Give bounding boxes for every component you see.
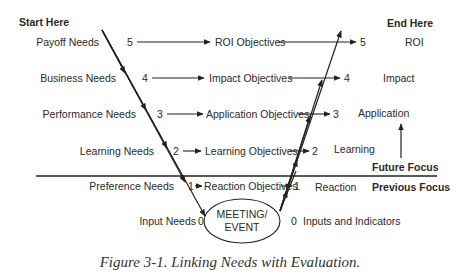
center-node-line2: EVENT (204, 221, 280, 233)
need-level-4: 4 (142, 72, 148, 84)
start-here-label: Start Here (19, 16, 69, 28)
previous-focus-label: Previous Focus (372, 181, 450, 193)
objective-label-1: Reaction Objectives (204, 180, 297, 192)
need-label-2: Learning Needs (80, 145, 154, 157)
need-level-2: 2 (173, 145, 179, 157)
need-level-3: 3 (157, 108, 163, 120)
eval-level-1: 1 (294, 180, 300, 192)
need-level-5: 5 (127, 36, 133, 48)
center-node-line1: MEETING/ (204, 208, 280, 220)
eval-level-5: 5 (360, 36, 366, 48)
need-label-3: Performance Needs (43, 108, 136, 120)
eval-level-4: 4 (344, 72, 350, 84)
eval-level-0: 0 (291, 215, 297, 227)
need-level-1: 1 (188, 180, 194, 192)
eval-level-2: 2 (312, 145, 318, 157)
need-label-4: Business Needs (40, 72, 116, 84)
end-here-label: End Here (387, 17, 433, 29)
need-label-0: Input Needs (139, 215, 196, 227)
eval-level-3: 3 (333, 108, 339, 120)
need-level-0: 0 (198, 215, 204, 227)
eval-label-1: Reaction (315, 181, 356, 193)
objective-label-5: ROI Objectives (215, 36, 286, 48)
future-focus-label: Future Focus (372, 161, 439, 173)
eval-label-4: Impact (383, 72, 415, 84)
eval-label-5: ROI (405, 36, 424, 48)
objective-label-2: Learning Objectives (205, 145, 298, 157)
eval-label-0: Inputs and Indicators (303, 215, 400, 227)
need-label-5: Payoff Needs (36, 36, 99, 48)
eval-label-2: Learning (334, 143, 375, 155)
need-label-1: Preference Needs (89, 180, 174, 192)
objective-label-3: Application Objectives (206, 108, 309, 120)
eval-label-3: Application (358, 107, 409, 119)
figure-caption: Figure 3-1. Linking Needs with Evaluatio… (0, 254, 460, 271)
objective-label-4: Impact Objectives (209, 72, 292, 84)
